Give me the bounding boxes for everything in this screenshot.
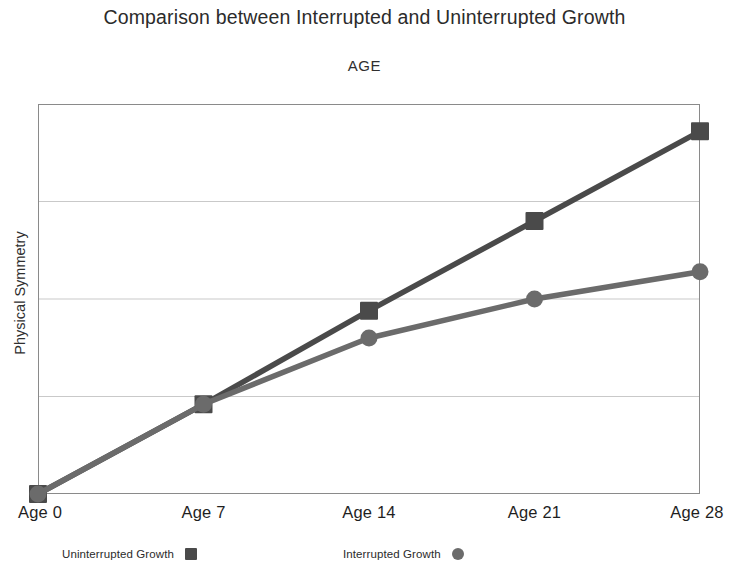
chart-subtitle: AGE	[0, 57, 729, 74]
legend-square-marker-icon	[185, 548, 197, 560]
chart-title: Comparison between Interrupted and Unint…	[0, 6, 729, 29]
x-tick-label: Age 14	[342, 503, 396, 522]
data-point-marker	[195, 396, 212, 413]
data-point-marker	[526, 212, 544, 230]
data-point-marker	[691, 122, 709, 140]
y-axis-title: Physical Symmetry	[12, 208, 28, 378]
data-point-marker	[360, 302, 378, 320]
data-point-marker	[692, 263, 709, 280]
gridlines-group	[38, 202, 700, 397]
legend-label: Uninterrupted Growth	[62, 548, 174, 560]
series-group	[29, 122, 709, 503]
plot-svg	[38, 104, 700, 494]
legend-entry[interactable]: Uninterrupted Growth	[62, 548, 197, 560]
legend-label: Interrupted Growth	[343, 548, 441, 560]
x-tick-label: Age 0	[18, 503, 62, 522]
legend-entry[interactable]: Interrupted Growth	[343, 548, 464, 560]
x-tick-label: Age 7	[181, 503, 225, 522]
x-tick-label: Age 28	[670, 503, 724, 522]
chart-legend: Uninterrupted GrowthInterrupted Growth	[0, 548, 729, 572]
data-point-marker	[526, 291, 543, 308]
x-tick-label: Age 21	[508, 503, 562, 522]
data-point-marker	[30, 486, 47, 503]
data-point-marker	[361, 330, 378, 347]
x-axis-tick-labels: Age 0Age 7Age 14Age 21Age 28	[0, 503, 729, 529]
chart-figure: Comparison between Interrupted and Unint…	[0, 0, 729, 576]
legend-circle-marker-icon	[452, 548, 464, 560]
plot-area	[38, 104, 700, 494]
